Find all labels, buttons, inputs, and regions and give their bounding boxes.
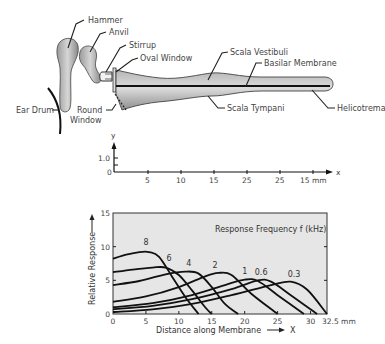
chart-x-axis-label: Distance along Membrane: [156, 326, 261, 335]
oval-window-leader: [116, 58, 138, 72]
chart-x-tick-label: 25: [273, 317, 283, 326]
curve-label: 0.6: [255, 268, 268, 277]
hammer-shape: [57, 38, 78, 112]
scala-tympani-leader: [208, 96, 225, 108]
curve-label: 0.3: [288, 270, 301, 279]
x-arrow-icon: [326, 170, 333, 175]
disp-y-tick-1: 1.0: [98, 154, 110, 163]
y-label-arrow-icon: [90, 214, 95, 220]
label-oval-window: Oval Window: [140, 54, 193, 63]
chart-title: Response Frequency f (kHz): [215, 225, 326, 234]
curve-label: 6: [166, 254, 171, 263]
disp-y-label: y: [111, 131, 116, 140]
label-basilar-membrane: Basilar Membrane: [264, 59, 337, 68]
chart-x-arrow-label: X: [290, 326, 296, 335]
disp-x-tick: 15: [209, 176, 219, 185]
response-chart: 864210.60.3 05101520253032.5 mm 051015 R…: [88, 209, 356, 335]
label-scala-vestibuli: Scala Vestibuli: [230, 48, 288, 57]
displacement-axis: y x 1.0 0 5 10 15 25 25 15 mm: [98, 131, 341, 185]
chart-x-tick-label: 20: [240, 317, 250, 326]
cochlea-tube: [116, 70, 333, 110]
label-ear-drum: Ear Drum: [16, 106, 54, 115]
disp-x-tick: 10: [176, 176, 186, 185]
chart-y-tick-label: 15: [100, 209, 110, 218]
cochlea-figure: Hammer Anvil Stirrup Oval Window Scala V…: [0, 0, 385, 344]
curve-label: 1: [242, 267, 247, 276]
chart-y-axis-label: Relative Response: [88, 232, 97, 305]
curve-label: 2: [213, 261, 218, 270]
disp-x-tick: 5: [145, 176, 150, 185]
chart-x-tick-label: 32.5 mm: [322, 317, 356, 326]
round-window-leader: [106, 104, 116, 110]
curve-label: 4: [186, 259, 191, 268]
label-hammer: Hammer: [88, 16, 123, 25]
disp-x-tick: 15 mm: [300, 176, 327, 185]
helicotrema-leader: [312, 90, 335, 108]
disp-y-tick-0: 0: [107, 168, 112, 177]
label-round-window-line1: Round: [77, 106, 102, 115]
chart-x-tick-label: 15: [207, 317, 217, 326]
stirrup-shape: [100, 72, 112, 81]
chart-x-tick-label: 0: [111, 317, 116, 326]
label-helicotrema: Helicotrema: [337, 104, 385, 113]
disp-x-tick: 25: [275, 176, 285, 185]
chart-y-tick-label: 10: [100, 243, 110, 252]
disp-x-tick: 25: [242, 176, 252, 185]
label-scala-tympani: Scala Tympani: [227, 104, 285, 113]
curve-label: 8: [143, 238, 148, 247]
chart-x-tick-label: 10: [174, 317, 184, 326]
label-anvil: Anvil: [109, 28, 129, 37]
chart-y-tick-label: 0: [105, 310, 110, 319]
chart-y-tick-label: 5: [105, 276, 110, 285]
label-stirrup: Stirrup: [129, 41, 156, 50]
chart-x-tick-label: 5: [144, 317, 149, 326]
y-arrow-icon: [112, 142, 117, 149]
chart-x-tick-label: 30: [306, 317, 316, 326]
ear-anatomy-diagram: Hammer Anvil Stirrup Oval Window Scala V…: [16, 16, 385, 134]
x-label-arrow-icon: [279, 328, 285, 333]
disp-x-label: x: [336, 168, 341, 177]
label-round-window-line2: Window: [70, 116, 102, 125]
